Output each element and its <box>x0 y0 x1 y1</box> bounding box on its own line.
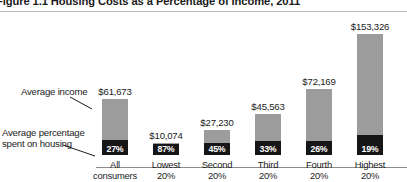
bar-percent-lowest-20: 87% <box>153 144 179 154</box>
bar-percent-second-20: 45% <box>204 144 230 154</box>
x-label-second-20: Second 20% <box>193 159 241 181</box>
bar-second-20[interactable]: $27,230 45% <box>204 130 230 155</box>
x-label-second-20-line1: Second <box>193 159 241 170</box>
x-label-third-20: Third 20% <box>244 159 292 181</box>
x-label-highest-20-line1: Highest <box>346 159 394 170</box>
x-label-all-consumers: All consumers <box>91 159 139 181</box>
bar-value-lowest-20: $10,074 <box>149 130 182 141</box>
x-label-all-consumers-line1: All <box>91 159 139 170</box>
bar-housing-segment-lowest-20[interactable]: 87% <box>153 144 179 155</box>
bar-fourth-20[interactable]: $72,169 26% <box>306 89 332 155</box>
bar-value-highest-20: $153,326 <box>351 21 389 32</box>
bar-housing-segment-all-consumers[interactable]: 27% <box>102 140 128 155</box>
bar-all-consumers[interactable]: $61,673 27% <box>102 99 128 155</box>
bar-percent-all-consumers: 27% <box>102 144 128 154</box>
x-label-lowest-20-line1: Lowest <box>142 159 190 170</box>
chart-plot-area: Average income Average percentage spent … <box>0 12 407 182</box>
x-label-all-consumers-line2: consumers <box>91 170 139 181</box>
annotation-average-percentage-line2: spent on housing <box>2 138 85 149</box>
bar-housing-segment-highest-20[interactable]: 19% <box>357 135 383 155</box>
bar-third-20[interactable]: $45,563 33% <box>255 114 281 155</box>
bar-lowest-20[interactable]: $10,074 87% <box>153 143 179 155</box>
bar-percent-highest-20: 19% <box>357 144 383 154</box>
figure-title-band: Figure 1.1 Housing Costs as a Percentage… <box>0 0 407 11</box>
bar-value-second-20: $27,230 <box>200 117 233 128</box>
x-label-third-20-line1: Third <box>244 159 292 170</box>
figure-title: Figure 1.1 Housing Costs as a Percentage… <box>0 0 300 7</box>
bar-housing-segment-second-20[interactable]: 45% <box>204 143 230 155</box>
x-label-lowest-20-line2: 20% <box>142 170 190 181</box>
x-label-fourth-20-line2: 20% <box>295 170 343 181</box>
bar-value-all-consumers: $61,673 <box>98 86 131 97</box>
x-label-fourth-20: Fourth 20% <box>295 159 343 181</box>
annotation-average-percentage-line1: Average percentage <box>2 127 85 138</box>
bar-housing-segment-fourth-20[interactable]: 26% <box>306 141 332 155</box>
x-label-fourth-20-line1: Fourth <box>295 159 343 170</box>
bar-housing-segment-third-20[interactable]: 33% <box>255 141 281 155</box>
annotation-average-income: Average income <box>21 86 87 97</box>
bar-percent-third-20: 33% <box>255 144 281 154</box>
bar-percent-fourth-20: 26% <box>306 144 332 154</box>
bar-highest-20[interactable]: $153,326 19% <box>357 34 383 155</box>
annotation-average-percentage: Average percentage spent on housing <box>2 127 85 149</box>
annotation-leader-lines <box>0 12 407 182</box>
x-label-lowest-20: Lowest 20% <box>142 159 190 181</box>
annotation-average-income-text: Average income <box>21 86 87 97</box>
figure-container: Figure 1.1 Housing Costs as a Percentage… <box>0 0 407 182</box>
bar-value-fourth-20: $72,169 <box>302 76 335 87</box>
x-label-second-20-line2: 20% <box>193 170 241 181</box>
x-label-highest-20-line2: 20% <box>346 170 394 181</box>
bar-value-third-20: $45,563 <box>251 101 284 112</box>
x-label-third-20-line2: 20% <box>244 170 292 181</box>
x-label-highest-20: Highest 20% <box>346 159 394 181</box>
